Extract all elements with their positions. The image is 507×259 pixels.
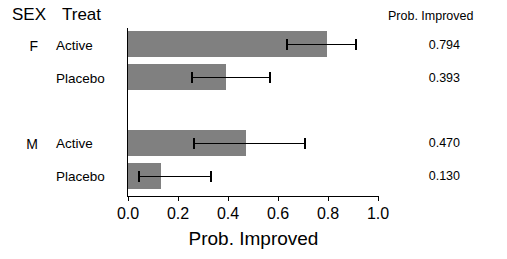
x-axis-tick <box>128 196 129 201</box>
x-axis-tick-label: 0.0 <box>108 205 148 223</box>
plot-area: 0.00.20.40.60.81.0 <box>0 0 507 259</box>
x-axis-tick <box>228 196 229 201</box>
error-bar-cap-upper <box>355 39 357 50</box>
x-axis-tick-label: 0.2 <box>158 205 198 223</box>
error-bar-cap-upper <box>304 138 306 149</box>
x-axis-tick-label: 0.4 <box>208 205 248 223</box>
chart-figure: SEX Treat Prob. Improved F Active 0.794 … <box>0 0 507 259</box>
error-bar-cap-lower <box>193 138 195 149</box>
error-bar-cap-lower <box>138 171 140 182</box>
x-axis-tick-label: 0.8 <box>308 205 348 223</box>
error-bar-line <box>191 77 271 78</box>
error-bar-line <box>286 44 357 45</box>
error-bar-line <box>193 143 305 144</box>
error-bar-cap-lower <box>286 39 288 50</box>
x-axis-tick-label: 0.6 <box>258 205 298 223</box>
error-bar-line <box>138 176 211 177</box>
x-axis-tick <box>178 196 179 201</box>
x-axis-title: Prob. Improved <box>0 228 507 250</box>
x-axis-tick <box>328 196 329 201</box>
error-bar-cap-upper <box>269 72 271 83</box>
x-axis-line <box>127 196 379 197</box>
error-bar-cap-upper <box>210 171 212 182</box>
x-axis-tick-label: 1.0 <box>358 205 398 223</box>
x-axis-tick <box>378 196 379 201</box>
error-bar-cap-lower <box>191 72 193 83</box>
x-axis-tick <box>278 196 279 201</box>
